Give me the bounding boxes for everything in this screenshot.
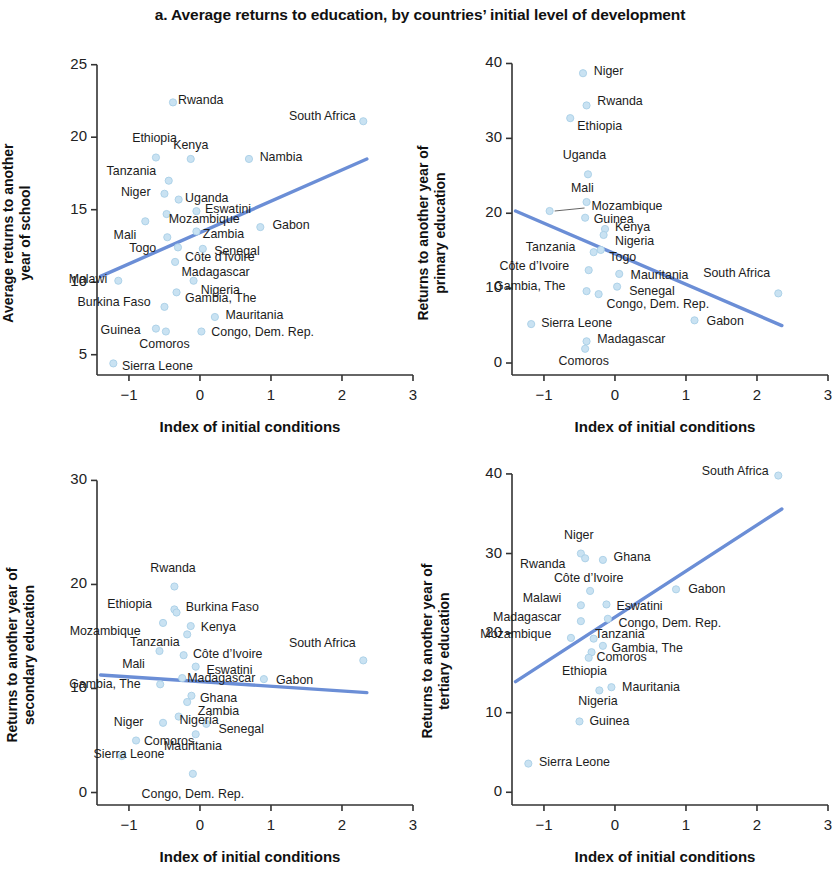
y-axis-title: Returns to another year of tertiary educ… xyxy=(419,546,453,756)
x-tick-label: −1 xyxy=(519,816,569,833)
x-tick-label: 3 xyxy=(803,816,840,833)
data-point-marker xyxy=(599,556,606,563)
data-point-label: South Africa xyxy=(599,465,769,478)
data-point-marker xyxy=(672,586,679,593)
data-point-label: Mauritania xyxy=(622,681,792,694)
chart-panel-4: 010203040−10123Returns to another year o… xyxy=(0,0,840,881)
x-tick-label: 0 xyxy=(590,816,640,833)
data-point-marker xyxy=(608,684,615,691)
data-point-label: Niger xyxy=(494,529,664,542)
data-point-marker xyxy=(582,555,589,562)
data-point-label: Malawi xyxy=(391,592,561,605)
x-axis-title: Index of initial conditions xyxy=(475,848,840,865)
data-point-label: Ethiopia xyxy=(499,665,669,678)
x-tick-label: 2 xyxy=(732,816,782,833)
data-point-marker xyxy=(525,760,532,767)
y-tick-label: 40 xyxy=(454,464,502,481)
data-point-label: Eswatini xyxy=(616,600,786,613)
data-point-label: Ghana xyxy=(614,551,784,564)
data-point-label: Mozambique xyxy=(381,628,551,641)
data-point-label: Gabon xyxy=(688,583,840,596)
data-point-label: Nigeria xyxy=(513,695,683,708)
data-point-label: Côte d’Ivoire xyxy=(504,572,674,585)
x-tick-label: 1 xyxy=(661,816,711,833)
data-point-marker xyxy=(587,587,594,594)
data-point-marker xyxy=(576,718,583,725)
data-point-marker xyxy=(596,687,603,694)
data-point-marker xyxy=(585,654,592,661)
data-point-marker xyxy=(603,601,610,608)
data-point-label: Sierra Leone xyxy=(539,756,709,769)
data-point-marker xyxy=(604,615,611,622)
data-point-marker xyxy=(577,602,584,609)
data-point-marker xyxy=(567,634,574,641)
figure-panel-a: a. Average returns to education, by coun… xyxy=(0,0,840,881)
data-point-label: Tanzania xyxy=(595,628,765,641)
data-point-marker xyxy=(775,472,782,479)
data-point-label: Madagascar xyxy=(391,611,561,624)
data-point-marker xyxy=(599,642,606,649)
data-point-label: Rwanda xyxy=(396,558,566,571)
y-tick-label: 10 xyxy=(454,703,502,720)
data-point-label: Guinea xyxy=(589,715,759,728)
y-tick-label: 0 xyxy=(454,782,502,799)
data-point-marker xyxy=(577,618,584,625)
data-point-label: Comoros xyxy=(597,651,767,664)
